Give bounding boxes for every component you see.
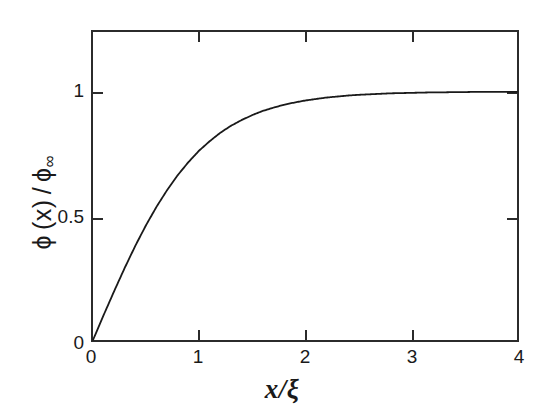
x-tick-label-3: 3 <box>407 347 418 366</box>
x-tick-label-2: 2 <box>300 347 311 366</box>
y-axis-label-subscript: ∞ <box>40 155 59 167</box>
y-tick-label-0-5: 0.5 <box>48 207 84 226</box>
x-axis-label-slash: / <box>279 374 287 404</box>
x-tick-label-0: 0 <box>86 347 97 366</box>
y-tick-label-1: 1 <box>48 81 84 100</box>
data-curve-tanh <box>93 92 517 340</box>
x-axis-label: x/ξ <box>0 374 544 405</box>
x-tick-label-1: 1 <box>193 347 204 366</box>
y-axis-label-phi: ϕ <box>28 235 56 250</box>
x-axis-label-denominator: ξ <box>287 374 300 404</box>
y-axis-label-slash: / <box>28 187 56 194</box>
y-axis-label: ϕ(x)/ϕ∞ <box>28 72 61 332</box>
x-tick-label-4: 4 <box>514 347 525 366</box>
data-curve-svg <box>93 32 517 340</box>
y-tick-label-0: 0 <box>48 333 84 352</box>
y-axis-label-phi-inf: ϕ <box>28 167 56 182</box>
plot-area <box>91 30 519 342</box>
x-axis-label-variable: x <box>265 374 279 404</box>
figure-canvas: ϕ(x)/ϕ∞ x/ξ 0 1 2 3 4 0 0.5 1 <box>0 0 544 420</box>
